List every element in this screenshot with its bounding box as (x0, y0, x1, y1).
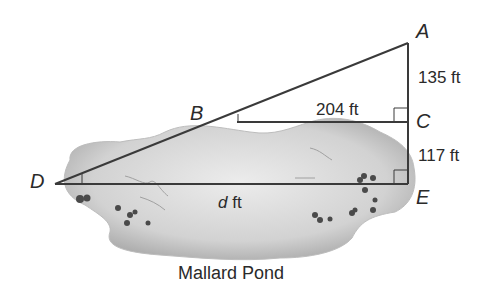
measure-ce: 117 ft (418, 146, 459, 166)
point-label-c: C (416, 110, 430, 133)
point-label-a: A (416, 20, 429, 43)
point-label-e: E (416, 186, 429, 209)
diagram-canvas (0, 0, 478, 288)
diagram-caption: Mallard Pond (178, 263, 284, 284)
point-label-b: B (190, 102, 203, 125)
measure-de-unit: ft (227, 193, 241, 212)
measure-ac: 135 ft (418, 68, 461, 88)
measure-de: d ft (218, 193, 242, 213)
measure-bc: 204 ft (316, 100, 359, 120)
point-label-d: D (30, 170, 44, 193)
